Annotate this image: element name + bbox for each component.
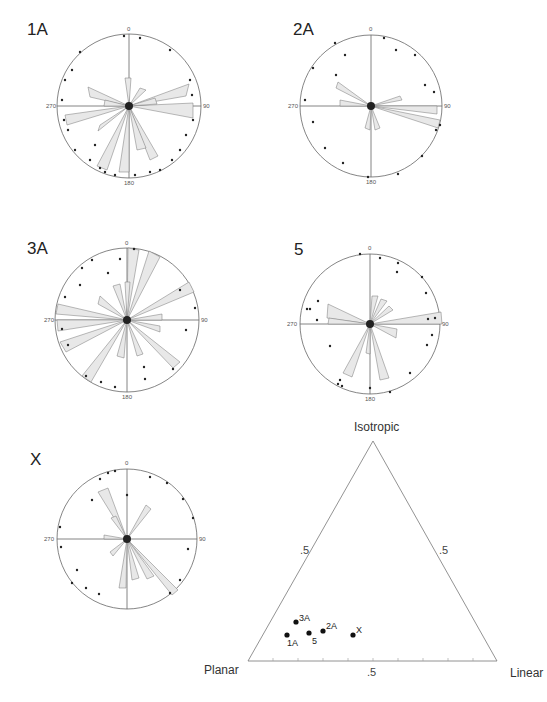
svg-text:0: 0 bbox=[127, 26, 131, 32]
rose-2A-plot: 0 90 180 270 bbox=[270, 0, 470, 200]
point-label-1A: 1A bbox=[287, 638, 298, 648]
point-label-5: 5 bbox=[312, 636, 317, 646]
ternary-diagram: Isotropic Planar Linear .5 .5 .5 1A 3A 5… bbox=[190, 420, 547, 702]
svg-text:0: 0 bbox=[125, 460, 129, 466]
svg-text:180: 180 bbox=[365, 396, 376, 402]
edge-label-left: .5 bbox=[300, 544, 309, 556]
svg-text:0: 0 bbox=[368, 245, 372, 251]
svg-text:270: 270 bbox=[44, 536, 55, 542]
svg-text:0: 0 bbox=[369, 26, 373, 32]
rose-2A: 2A 0 90 180 270 bbox=[270, 0, 470, 200]
edge-label-right: .5 bbox=[439, 544, 448, 556]
svg-text:270: 270 bbox=[287, 321, 298, 327]
svg-text:180: 180 bbox=[124, 180, 135, 186]
svg-text:180: 180 bbox=[366, 179, 377, 185]
rose-3A-plot: 0 90 180 270 bbox=[0, 200, 220, 410]
svg-text:270: 270 bbox=[46, 103, 57, 109]
point-label-X: X bbox=[356, 625, 362, 635]
svg-text:270: 270 bbox=[288, 103, 299, 109]
rose-5: 5 0 90 180 270 bbox=[270, 220, 470, 400]
svg-text:0: 0 bbox=[125, 240, 129, 246]
ternary-plot bbox=[190, 420, 547, 702]
point-label-3A: 3A bbox=[299, 613, 310, 623]
svg-text:180: 180 bbox=[122, 394, 133, 400]
point-label-2A: 2A bbox=[326, 621, 337, 631]
svg-text:90: 90 bbox=[201, 317, 208, 323]
rose-1A: 1A 0 90 180 270 bbox=[0, 0, 250, 200]
rose-1A-plot: 0 90 180 270 bbox=[0, 0, 250, 200]
rose-5-plot: 0 90 180 270 bbox=[270, 220, 470, 400]
rose-3A: 3A 0 90 180 270 bbox=[0, 200, 220, 410]
svg-text:90: 90 bbox=[203, 103, 210, 109]
svg-text:90: 90 bbox=[442, 321, 449, 327]
svg-text:90: 90 bbox=[444, 103, 451, 109]
svg-text:270: 270 bbox=[44, 317, 55, 323]
edge-label-bottom: .5 bbox=[367, 666, 376, 678]
